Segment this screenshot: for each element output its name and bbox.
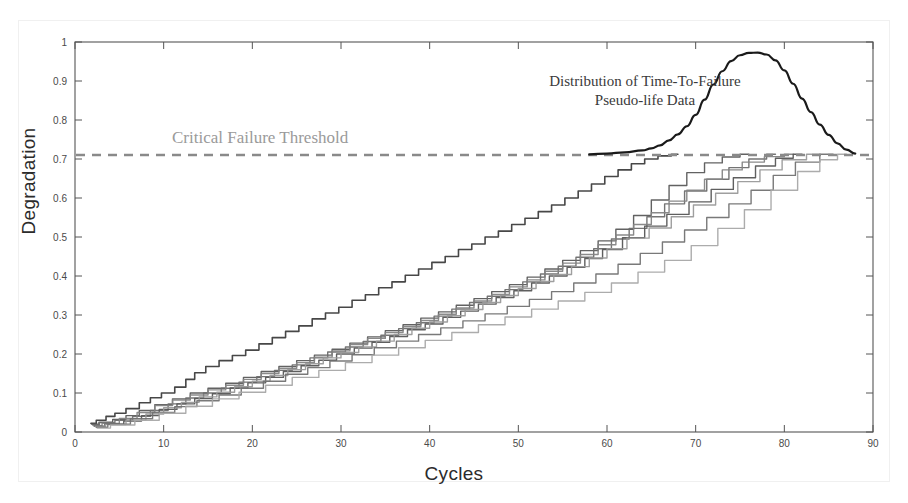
y-tick-label: 0 — [61, 427, 67, 438]
x-tick-label: 30 — [335, 438, 347, 449]
x-tick-label: 0 — [72, 438, 78, 449]
x-tick-label: 50 — [513, 438, 525, 449]
x-tick-label: 20 — [247, 438, 259, 449]
y-tick-label: 0.3 — [53, 310, 67, 321]
y-tick-label: 0.6 — [53, 193, 67, 204]
x-tick-label: 60 — [601, 438, 613, 449]
y-axis-title: Degradation — [18, 76, 40, 286]
distribution-annotation: Distribution of Time-To-Failure Pseudo-l… — [510, 72, 780, 110]
x-tick-label: 70 — [690, 438, 702, 449]
x-tick-label: 40 — [424, 438, 436, 449]
degradation-path — [91, 154, 678, 423]
degradation-path — [93, 154, 776, 425]
x-tick-label: 80 — [779, 438, 791, 449]
x-axis-title: Cycles — [0, 463, 908, 485]
x-tick-label: 90 — [867, 438, 879, 449]
degradation-path — [96, 154, 833, 427]
degradation-path — [94, 154, 794, 425]
x-tick-label: 10 — [158, 438, 170, 449]
y-tick-label: 0.7 — [53, 154, 67, 165]
y-tick-label: 1 — [61, 37, 67, 48]
y-tick-label: 0.2 — [53, 349, 67, 360]
critical-failure-threshold-label: Critical Failure Threshold — [172, 128, 348, 148]
degradation-path — [97, 154, 846, 428]
y-tick-label: 0.1 — [53, 388, 67, 399]
distribution-annotation-line1: Distribution of Time-To-Failure — [510, 72, 780, 91]
degradation-path — [95, 154, 803, 426]
y-tick-label: 0.4 — [53, 271, 67, 282]
y-tick-label: 0.8 — [53, 115, 67, 126]
degradation-path — [92, 154, 749, 424]
y-tick-label: 0.5 — [53, 232, 67, 243]
y-tick-label: 0.9 — [53, 76, 67, 87]
degradation-figure: 00.10.20.30.40.50.60.70.80.9101020304050… — [0, 0, 908, 503]
distribution-annotation-line2: Pseudo-life Data — [510, 91, 780, 110]
